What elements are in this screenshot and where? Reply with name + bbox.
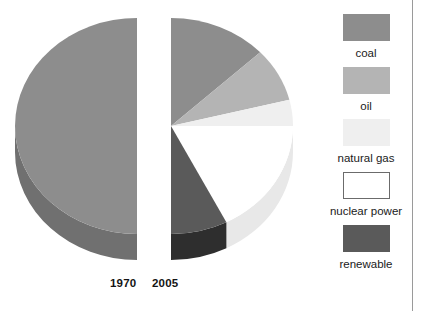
pie-chart-area xyxy=(0,0,300,270)
legend-swatch-renewable xyxy=(343,225,390,252)
pie-1970-slice-oil xyxy=(137,126,160,234)
legend-label-renewable: renewable xyxy=(339,258,392,271)
pie-chart-svg xyxy=(0,0,300,270)
legend-swatch-natural-gas xyxy=(343,119,390,146)
legend-label-oil: oil xyxy=(360,100,372,113)
pie-2005 xyxy=(171,18,293,260)
legend-item-natural-gas: natural gas xyxy=(318,119,414,165)
legend-label-natural-gas: natural gas xyxy=(338,152,395,165)
pie-1970-year-label: 1970 xyxy=(110,277,136,289)
chart-legend: coaloilnatural gasnuclear powerrenewable xyxy=(318,14,414,277)
legend-swatch-coal xyxy=(343,14,390,41)
legend-item-nuclear-power: nuclear power xyxy=(318,172,414,218)
legend-item-oil: oil xyxy=(318,67,414,113)
legend-swatch-nuclear-power xyxy=(343,172,390,199)
legend-item-coal: coal xyxy=(318,14,414,60)
pie-2005-year-label: 2005 xyxy=(152,277,178,289)
pie-1970-side-oil xyxy=(137,232,160,260)
energy-mix-figure: 1970 2005 coaloilnatural gasnuclear powe… xyxy=(0,0,431,311)
legend-label-nuclear-power: nuclear power xyxy=(330,205,402,218)
legend-label-coal: coal xyxy=(355,47,376,60)
legend-item-renewable: renewable xyxy=(318,225,414,271)
page-vertical-rule xyxy=(412,0,413,311)
legend-swatch-oil xyxy=(343,67,390,94)
